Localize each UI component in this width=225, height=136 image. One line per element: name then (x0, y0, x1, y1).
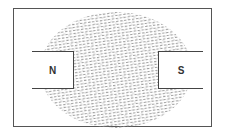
south-pole-magnet: S (158, 51, 203, 89)
north-pole-magnet: N (32, 51, 74, 89)
south-pole-label: S (178, 65, 185, 76)
north-pole-label: N (49, 65, 56, 76)
